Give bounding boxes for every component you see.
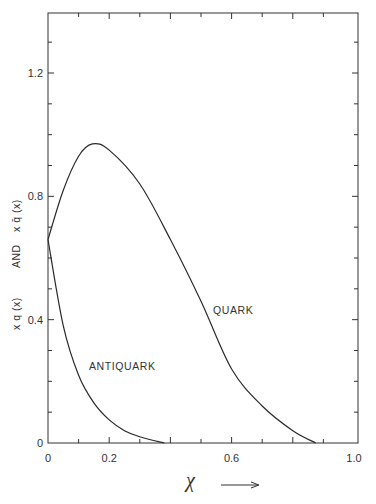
x-tick-label: 1.0 <box>346 452 361 464</box>
y-title-antiquark: x q̄ (x) <box>10 199 22 232</box>
y-axis-title: x q (x) AND x q̄ (x) <box>10 199 22 330</box>
chart: 00.20.61.000.40.81.2 QUARK ANTIQUARK χ x… <box>0 0 376 504</box>
x-tick-label: 0.2 <box>102 452 117 464</box>
y-tick-label: 1.2 <box>28 67 43 79</box>
antiquark-label: ANTIQUARK <box>89 360 156 372</box>
x-tick-label: 0.6 <box>224 452 239 464</box>
y-title-quark: x q (x) <box>10 297 22 330</box>
y-tick-label: 0.8 <box>28 190 43 202</box>
y-tick-label: 0 <box>37 437 43 449</box>
quark-label: QUARK <box>213 304 253 316</box>
quark-curve <box>48 144 316 443</box>
tick-labels: 00.20.61.000.40.81.2 <box>28 67 362 464</box>
plot-frame <box>48 13 358 443</box>
antiquark-curve <box>48 240 164 444</box>
curves <box>48 144 316 443</box>
y-tick-label: 0.4 <box>28 314 43 326</box>
x-axis-arrow-icon <box>221 482 259 488</box>
y-title-and: AND <box>10 244 22 268</box>
x-tick-label: 0 <box>45 452 51 464</box>
x-axis-title: χ <box>184 469 196 492</box>
axis-ticks <box>48 13 358 443</box>
